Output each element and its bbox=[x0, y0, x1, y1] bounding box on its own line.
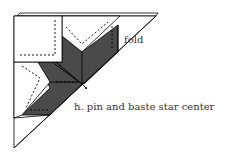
folded-block-illustration bbox=[0, 0, 235, 157]
step-caption: h. pin and baste star center bbox=[74, 101, 214, 112]
fold-label: fold bbox=[124, 34, 143, 45]
top-strip bbox=[17, 13, 158, 16]
